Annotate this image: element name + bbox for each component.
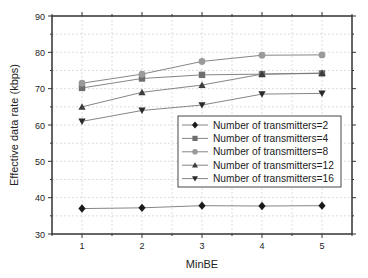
square-marker — [199, 72, 205, 78]
x-axis-label: MinBE — [186, 258, 218, 270]
square-marker — [192, 136, 197, 141]
legend-label: Number of transmitters=2 — [213, 120, 329, 131]
diamond-marker — [318, 201, 325, 209]
y-tick-label: 30 — [35, 230, 45, 240]
circle-marker — [259, 52, 266, 59]
y-tick-label: 60 — [35, 121, 45, 131]
legend-label: Number of transmitters=16 — [213, 173, 334, 184]
triangle-down-marker — [78, 118, 85, 124]
x-tick-label: 1 — [79, 241, 84, 251]
legend-label: Number of transmitters=4 — [213, 133, 329, 144]
x-tick-label: 2 — [139, 241, 144, 251]
y-tick-label: 90 — [35, 12, 45, 22]
circle-marker — [319, 51, 326, 58]
y-axis-label: Effective data rate (kbps) — [8, 64, 20, 186]
x-tick-label: 3 — [199, 241, 204, 251]
x-tick-label: 5 — [319, 241, 324, 251]
circle-marker — [192, 149, 198, 155]
y-tick-label: 80 — [35, 48, 45, 58]
y-tick-label: 40 — [35, 193, 45, 203]
x-tick-label: 4 — [259, 241, 264, 251]
diamond-marker — [78, 204, 85, 212]
legend: Number of transmitters=2Number of transm… — [178, 116, 341, 187]
circle-marker — [139, 71, 146, 78]
y-tick-label: 70 — [35, 84, 45, 94]
series-1 — [78, 201, 325, 212]
line-chart: 3040506070809012345 MinBE Effective data… — [0, 0, 368, 278]
y-tick-label: 50 — [35, 157, 45, 167]
legend-label: Number of transmitters=8 — [213, 146, 329, 157]
diamond-marker — [258, 202, 265, 210]
circle-marker — [79, 80, 86, 87]
diamond-marker — [138, 204, 145, 212]
circle-marker — [199, 58, 206, 65]
legend-label: Number of transmitters=12 — [213, 160, 334, 171]
diamond-marker — [198, 201, 205, 209]
